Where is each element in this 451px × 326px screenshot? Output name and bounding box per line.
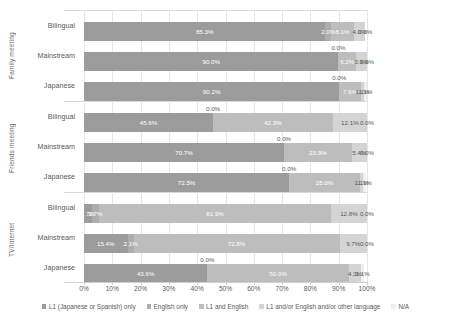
bar-value-label: 0.0% (360, 119, 374, 126)
bar-row-tv-japanese: 43.6%0.0%50.0%4.3%1.1% (84, 264, 367, 283)
legend-label: L1 (Japanese or Spanish) only (49, 303, 136, 310)
legend-item-1[interactable]: English only (147, 303, 188, 310)
bar-value-label: 0.0% (332, 74, 346, 81)
x-tick-label-70%: 70% (275, 285, 288, 292)
row-label-friends-mainstream: Mainstream (22, 143, 80, 150)
legend-label: L1 and English (206, 303, 248, 310)
bar-row-tv-mainstream: 15.4%2.1%72.8%9.7%0.0% (84, 234, 367, 253)
bar-value-label: 23.9% (309, 149, 327, 156)
bar-segment-family-japanese-s0: 90.2% (84, 82, 339, 101)
bar-segment-friends-japanese-s4: 1.1% (363, 173, 366, 192)
row-label-family-mainstream: Mainstream (22, 52, 80, 59)
bar-segment-tv-bilingual-s2: 81.9% (99, 204, 331, 223)
bar-value-label: 72.8% (228, 240, 246, 247)
row-label-family-bilingual: Bilingual (22, 22, 80, 29)
bar-segment-friends-mainstream-s0: 70.7% (84, 143, 284, 162)
plot-area: 85.3%2.0%8.1%4.0%0.0%90.0%0.0%6.2%3.9%0.… (84, 10, 367, 282)
x-tick-label-100%: 100% (359, 285, 376, 292)
x-tick-label-20%: 20% (134, 285, 147, 292)
bar-value-label: 70.7% (175, 149, 193, 156)
bar-value-label: 43.6% (137, 270, 155, 277)
bar-segment-family-mainstream-s0: 90.0% (84, 52, 338, 71)
legend-label: N/A (398, 303, 409, 310)
bar-value-label: 0.0% (200, 256, 214, 263)
x-tick-label-80%: 80% (304, 285, 317, 292)
bar-value-label: 81.9% (206, 210, 224, 217)
bar-segment-tv-japanese-s4: 1.1% (361, 264, 364, 283)
x-tick-label-40%: 40% (191, 285, 204, 292)
x-tick-label-30%: 30% (162, 285, 175, 292)
bar-segment-tv-japanese-s2: 50.0% (207, 264, 349, 283)
legend-swatch-icon (42, 304, 47, 309)
chart-legend: L1 (Japanese or Spanish) onlyEnglish onl… (0, 303, 451, 310)
bar-row-family-bilingual: 85.3%2.0%8.1%4.0%0.0% (84, 22, 367, 41)
bar-segment-friends-japanese-s0: 72.5% (84, 173, 289, 192)
legend-label: English only (154, 303, 188, 310)
legend-label: L1 and/or English and/or other language (266, 303, 380, 310)
bar-value-label: 0.0% (360, 240, 374, 247)
bar-value-label: 1.1% (356, 270, 370, 277)
legend-swatch-icon (391, 304, 396, 309)
bar-row-friends-japanese: 72.5%0.0%25.0%1.1%1.1% (84, 173, 367, 192)
bar-value-label: 0.0% (331, 44, 345, 51)
row-label-tv-japanese: Japanese (22, 264, 80, 271)
bar-value-label: 85.3% (196, 28, 214, 35)
bar-value-label: 0.0% (358, 28, 372, 35)
bar-value-label: 2.7% (88, 210, 102, 217)
bar-row-family-japanese: 90.2%0.0%7.6%1.1%1.1% (84, 82, 367, 101)
bar-value-label: 72.5% (178, 179, 196, 186)
legend-swatch-icon (147, 304, 152, 309)
bar-segment-friends-mainstream-s2: 23.9% (284, 143, 352, 162)
bar-segment-friends-bilingual-s2: 42.3% (213, 113, 333, 132)
x-tick-label-60%: 60% (247, 285, 260, 292)
stacked-bar-chart: Family meeting Friends meeting TV/Intern… (0, 0, 451, 326)
bar-row-friends-mainstream: 70.7%0.0%23.9%5.4%0.0% (84, 143, 367, 162)
x-tick-label-0%: 0% (79, 285, 89, 292)
bar-segment-family-bilingual-s2: 8.1% (331, 22, 354, 41)
x-tick-label-50%: 50% (219, 285, 232, 292)
bar-row-friends-bilingual: 45.6%0.0%42.3%12.1%0.0% (84, 113, 367, 132)
x-tick-label-90%: 90% (332, 285, 345, 292)
row-label-friends-bilingual: Bilingual (22, 113, 80, 120)
group-axis-title-friends: Friends meeting (8, 106, 22, 190)
bar-value-label: 15.4% (97, 240, 115, 247)
bar-value-label: 90.2% (203, 88, 221, 95)
bar-value-label: 0.0% (277, 135, 291, 142)
x-axis: 0%10%20%30%40%50%60%70%80%90%100% (84, 282, 367, 296)
bar-value-label: 25.0% (316, 179, 334, 186)
bar-segment-tv-mainstream-s2: 72.8% (134, 234, 340, 253)
bar-value-label: 0.0% (360, 149, 374, 156)
bar-value-label: 45.6% (140, 119, 158, 126)
x-tick-label-10%: 10% (106, 285, 119, 292)
row-label-family-japanese: Japanese (22, 82, 80, 89)
bar-value-label: 9.7% (346, 240, 360, 247)
bar-value-label: 12.1% (341, 119, 359, 126)
bar-segment-family-japanese-s4: 1.1% (364, 82, 367, 101)
bar-segment-family-mainstream-s2: 6.2% (338, 52, 356, 71)
legend-swatch-icon (259, 304, 264, 309)
bar-value-label: 12.8% (340, 210, 358, 217)
row-label-friends-japanese: Japanese (22, 173, 80, 180)
legend-item-4[interactable]: N/A (391, 303, 409, 310)
legend-item-3[interactable]: L1 and/or English and/or other language (259, 303, 380, 310)
row-label-tv-mainstream: Mainstream (22, 234, 80, 241)
legend-swatch-icon (199, 304, 204, 309)
bar-value-label: 1.1% (358, 88, 372, 95)
bar-value-label: 0.0% (360, 210, 374, 217)
bar-value-label: 0.0% (206, 105, 220, 112)
bar-segment-friends-japanese-s2: 25.0% (289, 173, 360, 192)
bar-value-label: 0.0% (282, 165, 296, 172)
bar-segment-tv-mainstream-s0: 15.4% (84, 234, 128, 253)
bar-row-tv-bilingual: 2.7%2.7%81.9%12.8%0.0% (84, 204, 367, 223)
bar-value-label: 1.1% (358, 179, 372, 186)
bar-value-label: 90.0% (202, 58, 220, 65)
bar-value-label: 0.0% (360, 58, 374, 65)
bar-value-label: 2.1% (124, 240, 138, 247)
bar-segment-friends-bilingual-s0: 45.6% (84, 113, 213, 132)
bar-segment-family-bilingual-s0: 85.3% (84, 22, 325, 41)
row-label-tv-bilingual: Bilingual (22, 204, 80, 211)
bar-value-label: 50.0% (269, 270, 287, 277)
group-axis-title-family: Family meeting (8, 14, 22, 98)
legend-item-2[interactable]: L1 and English (199, 303, 248, 310)
legend-item-0[interactable]: L1 (Japanese or Spanish) only (42, 303, 136, 310)
